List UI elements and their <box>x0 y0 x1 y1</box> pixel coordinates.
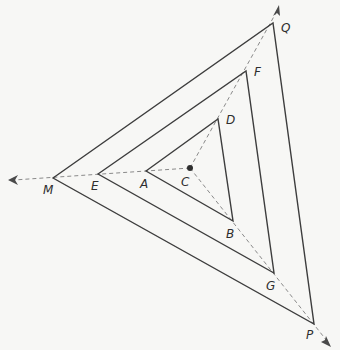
label-P: P <box>306 328 314 342</box>
nested-triangles-diagram: A B C D E F G M P Q <box>0 0 340 350</box>
ray-toward-P <box>190 168 327 341</box>
label-A: A <box>139 177 148 191</box>
label-M: M <box>43 183 54 197</box>
label-C: C <box>181 175 190 189</box>
label-E: E <box>91 179 99 193</box>
arrowhead-top-icon <box>273 5 280 16</box>
label-G: G <box>266 279 275 293</box>
ray-toward-Q <box>190 11 277 168</box>
label-D: D <box>226 113 235 127</box>
arrowhead-left-icon <box>8 175 18 185</box>
arrowhead-bottom-icon <box>321 336 331 347</box>
label-Q: Q <box>281 21 290 35</box>
center-point-C <box>187 165 193 171</box>
label-F: F <box>254 65 262 79</box>
labels: A B C D E F G M P Q <box>43 21 314 342</box>
label-B: B <box>226 227 234 241</box>
ray-toward-M <box>14 168 190 180</box>
rays <box>14 11 327 341</box>
